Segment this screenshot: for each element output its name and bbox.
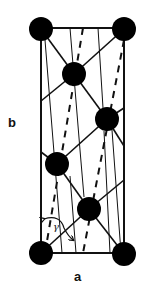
lattice-line	[112, 130, 121, 253]
atom-interior-2	[95, 107, 119, 131]
atom-interior-3	[45, 152, 69, 176]
dashed-plane-line	[83, 40, 124, 253]
atom-corner-bottom-left	[29, 241, 53, 265]
atom-interior-1	[62, 62, 86, 86]
crystal-lattice-diagram	[0, 0, 145, 299]
atom-corner-top-right	[112, 17, 136, 41]
angle-label-gamma: γ	[53, 222, 59, 232]
axis-label-b: b	[8, 116, 16, 129]
lattice-line	[80, 150, 84, 197]
lattice-line	[98, 28, 103, 108]
atom-corner-bottom-right	[112, 242, 136, 266]
atom-corner-top-left	[29, 17, 53, 41]
lattice-line	[70, 28, 80, 150]
axis-label-a: a	[74, 270, 81, 283]
atom-interior-4	[77, 197, 101, 221]
